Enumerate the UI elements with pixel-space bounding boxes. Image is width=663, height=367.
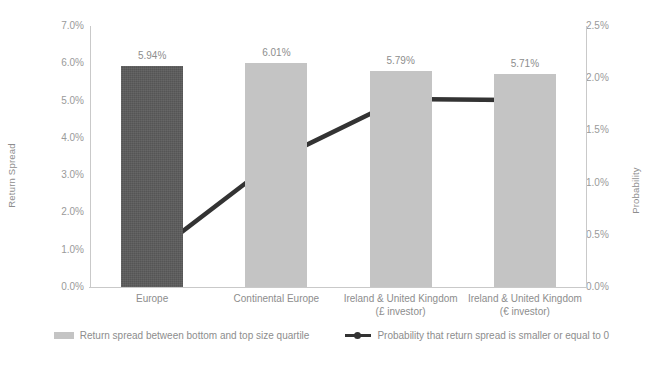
y-axis-right-tick: 1.0% xyxy=(586,178,609,188)
bar-3[interactable] xyxy=(494,74,556,287)
x-axis-label-0: Europe xyxy=(90,292,214,305)
x-axis-label-2: Ireland & United Kingdom(£ investor) xyxy=(339,292,463,318)
bar-swatch-icon xyxy=(54,332,74,339)
probability-line xyxy=(152,99,525,255)
y-axis-left-tick: 6.0% xyxy=(61,58,84,68)
y-axis-left-tick: 1.0% xyxy=(61,245,84,255)
plot-area: 5.94%6.01%5.79%5.71% xyxy=(90,26,587,287)
x-axis-category-labels: EuropeContinental EuropeIreland & United… xyxy=(90,292,587,326)
y-axis-left-ticks: 0.0%1.0%2.0%3.0%4.0%5.0%6.0%7.0% xyxy=(32,0,84,367)
chart-canvas: Return Spread Probability 0.0%1.0%2.0%3.… xyxy=(0,0,663,367)
y-axis-left-tick: 4.0% xyxy=(61,133,84,143)
y-axis-right-tick: 0.0% xyxy=(586,282,609,292)
x-axis-label-3: Ireland & United Kingdom(€ investor) xyxy=(463,292,587,318)
bar-value-label-3: 5.71% xyxy=(485,58,565,69)
bar-0[interactable] xyxy=(121,66,183,287)
legend-item-probability[interactable]: Probability that return spread is smalle… xyxy=(345,330,609,341)
bar-1[interactable] xyxy=(245,63,307,287)
x-axis-line xyxy=(89,287,587,288)
y-axis-left-title: Return Spread xyxy=(6,143,17,207)
bar-2[interactable] xyxy=(370,71,432,287)
y-axis-right-tick: 0.5% xyxy=(586,230,609,240)
y-axis-right-tick: 2.5% xyxy=(586,21,609,31)
legend-item-return-spread[interactable]: Return spread between bottom and top siz… xyxy=(54,330,310,341)
legend-label-probability: Probability that return spread is smalle… xyxy=(377,330,609,341)
y-axis-right-tick: 2.0% xyxy=(586,73,609,83)
legend-label-return-spread: Return spread between bottom and top siz… xyxy=(80,330,310,341)
bar-value-label-0: 5.94% xyxy=(112,50,192,61)
y-axis-left-tick: 2.0% xyxy=(61,207,84,217)
bar-value-label-1: 6.01% xyxy=(236,47,316,58)
bar-value-label-2: 5.79% xyxy=(361,55,441,66)
y-axis-left-tick: 7.0% xyxy=(61,21,84,31)
y-axis-right-ticks: 0.0%0.5%1.0%1.5%2.0%2.5% xyxy=(586,0,634,367)
line-marker-icon xyxy=(345,331,371,340)
y-axis-left-tick: 0.0% xyxy=(61,282,84,292)
y-axis-left-tick: 3.0% xyxy=(61,170,84,180)
x-axis-label-1: Continental Europe xyxy=(214,292,338,305)
chart-legend: Return spread between bottom and top siz… xyxy=(0,330,663,341)
y-axis-left-tick: 5.0% xyxy=(61,96,84,106)
y-axis-right-tick: 1.5% xyxy=(586,125,609,135)
